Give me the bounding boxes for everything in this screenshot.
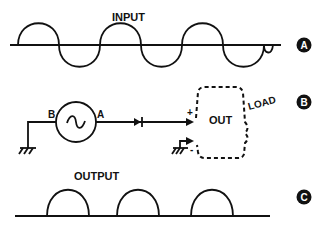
output-hump-1 bbox=[47, 190, 89, 216]
diode-icon bbox=[134, 117, 142, 127]
rectifier-diagram: INPUT A B A + bbox=[0, 0, 322, 229]
output-label: OUTPUT bbox=[74, 170, 120, 182]
ground-icon-left bbox=[19, 148, 36, 154]
svg-text:B: B bbox=[300, 97, 307, 108]
panel-b-circuit: B A + - OUT LOAD B bbox=[19, 87, 312, 158]
marker-c: C bbox=[297, 190, 312, 205]
input-label: INPUT bbox=[112, 11, 145, 23]
output-hump-3 bbox=[191, 190, 233, 216]
ground-icon-right bbox=[172, 148, 188, 154]
minus-sign: - bbox=[190, 144, 193, 155]
marker-b: B bbox=[297, 95, 312, 110]
plus-arrow-icon bbox=[186, 118, 194, 126]
panel-c-output: OUTPUT C bbox=[15, 170, 312, 216]
output-hump-2 bbox=[117, 190, 159, 216]
svg-text:C: C bbox=[300, 192, 307, 203]
plus-sign: + bbox=[187, 107, 193, 118]
svg-text:A: A bbox=[300, 40, 307, 51]
terminal-a-label: A bbox=[97, 109, 104, 120]
marker-a: A bbox=[297, 38, 312, 53]
load-label: LOAD bbox=[247, 94, 277, 112]
ac-sine-icon bbox=[67, 116, 85, 128]
out-label: OUT bbox=[209, 114, 233, 126]
panel-a-input: INPUT A bbox=[10, 11, 312, 67]
ground-wire bbox=[28, 122, 56, 148]
terminal-b-label: B bbox=[48, 109, 55, 120]
